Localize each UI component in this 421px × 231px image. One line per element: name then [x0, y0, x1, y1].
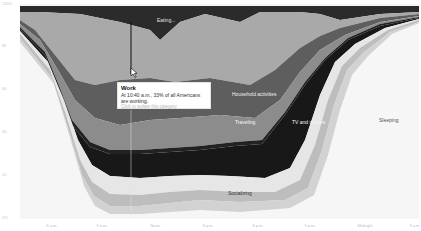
x-tick-9am: 9 a.m.: [96, 223, 107, 228]
y-tick-80: 80: [2, 43, 6, 48]
x-tick-3am: 3 a.m.: [409, 223, 420, 228]
tooltip-body: At 10:40 a.m., 33% of all Americans are …: [121, 92, 207, 104]
y-tick-40: 40: [2, 129, 6, 134]
label-household[interactable]: Household activities: [232, 91, 276, 97]
tooltip-hint[interactable]: Click to isolate this category: [121, 104, 207, 110]
x-tick-9pm: 9 p.m.: [304, 223, 315, 228]
label-eating[interactable]: Eating...: [157, 17, 175, 23]
x-tick-6am: 6 a.m.: [46, 223, 57, 228]
x-tick-midnight: Midnight: [357, 223, 372, 228]
label-socializing[interactable]: Socializing: [228, 190, 252, 196]
y-tick-100: 100%: [2, 1, 12, 6]
x-tick-noon: Noon: [150, 223, 160, 228]
label-tv[interactable]: TV and movies: [292, 119, 325, 125]
x-tick-3pm: 3 p.m.: [202, 223, 213, 228]
tooltip: Work At 10:40 a.m., 33% of all Americans…: [117, 82, 211, 109]
label-traveling[interactable]: Traveling: [235, 119, 255, 125]
y-tick-20: 20: [2, 172, 6, 177]
tooltip-title: Work: [121, 85, 207, 92]
y-tick-60: 60: [2, 86, 6, 91]
pointer-cursor-icon: [130, 68, 138, 78]
y-tick-0: 0%: [2, 215, 8, 220]
label-sleeping[interactable]: Sleeping: [379, 117, 398, 123]
x-tick-6pm: 6 p.m.: [252, 223, 263, 228]
